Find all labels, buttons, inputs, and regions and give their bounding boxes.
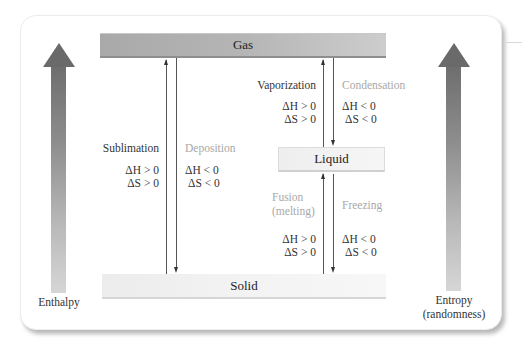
arrow-up-icon bbox=[164, 59, 168, 65]
fusion-arrow-line bbox=[323, 174, 324, 274]
condensation-label: Condensation bbox=[342, 78, 405, 93]
arrow-up-icon bbox=[321, 59, 325, 65]
entropy-label: Entropy (randomness) bbox=[414, 293, 494, 321]
enthalpy-label: Enthalpy bbox=[20, 295, 98, 309]
vaporization-ds: ΔS > 0 bbox=[250, 112, 316, 127]
sublimation-label: Sublimation bbox=[94, 141, 159, 156]
entropy-label-line1: Entropy bbox=[414, 293, 494, 307]
freezing-label: Freezing bbox=[342, 198, 382, 213]
arrow-up-icon bbox=[321, 173, 325, 179]
condensation-ds: ΔS < 0 bbox=[345, 112, 377, 127]
fusion-ds: ΔS > 0 bbox=[250, 245, 316, 260]
arrow-down-icon bbox=[174, 267, 178, 273]
vaporization-label: Vaporization bbox=[250, 78, 316, 93]
fusion-label: Fusion bbox=[272, 190, 303, 205]
solid-phase-bar: Solid bbox=[102, 274, 386, 299]
condensation-arrow-line bbox=[333, 58, 334, 141]
sublimation-arrow-line bbox=[166, 60, 167, 274]
deposition-label: Deposition bbox=[185, 141, 235, 156]
arrow-down-icon bbox=[331, 267, 335, 273]
vaporization-arrow-line bbox=[323, 60, 324, 147]
entropy-label-line2: (randomness) bbox=[414, 307, 494, 321]
gas-label: Gas bbox=[233, 37, 253, 53]
gas-phase-bar: Gas bbox=[100, 33, 386, 58]
entropy-arrow-icon bbox=[438, 43, 470, 291]
freezing-ds: ΔS < 0 bbox=[345, 245, 377, 260]
liquid-label: Liquid bbox=[314, 151, 349, 167]
enthalpy-arrow-icon bbox=[43, 43, 75, 293]
diagram-canvas: Enthalpy Entropy (randomness) Gas Liquid… bbox=[0, 0, 522, 343]
sublimation-ds: ΔS > 0 bbox=[94, 176, 159, 191]
liquid-phase-box: Liquid bbox=[278, 147, 385, 172]
deposition-arrow-line bbox=[176, 58, 177, 269]
freezing-arrow-line bbox=[333, 174, 334, 269]
solid-label: Solid bbox=[230, 278, 257, 294]
deposition-ds: ΔS < 0 bbox=[188, 176, 220, 191]
divider-line bbox=[503, 42, 522, 43]
arrow-down-icon bbox=[331, 140, 335, 146]
fusion-sublabel: (melting) bbox=[272, 204, 315, 219]
